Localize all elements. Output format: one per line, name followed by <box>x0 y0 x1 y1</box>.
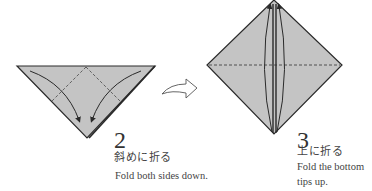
hollow-right-arrow-icon <box>162 79 197 98</box>
step-3-instruction-en: Fold the bottom tips up. <box>297 159 372 189</box>
step-2-number: 2 <box>114 128 126 152</box>
step-2-instruction-en: Fold both sides down. <box>115 168 208 183</box>
step-2-triangle <box>17 66 155 138</box>
step-3-diamond <box>207 0 342 134</box>
step-3-instruction-jp: 上に折る <box>297 145 343 158</box>
step-2-instruction-jp: 斜めに折る <box>114 151 172 164</box>
